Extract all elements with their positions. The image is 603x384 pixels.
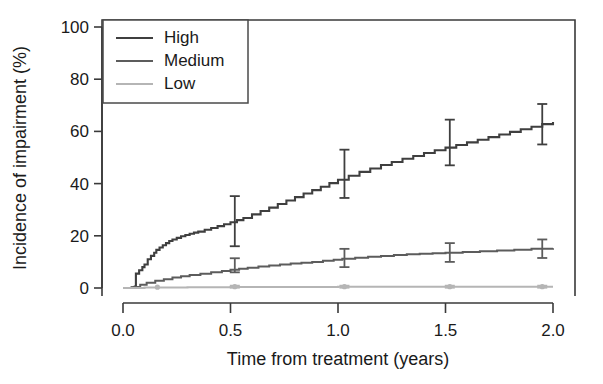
error-bar-high <box>445 120 455 166</box>
x-tick-label: 1.5 <box>434 321 458 340</box>
series-line-medium <box>123 248 553 288</box>
y-tick-label: 60 <box>70 122 89 141</box>
x-axis: 0.00.51.01.52.0 <box>111 303 565 340</box>
chart-figure: 020406080100 0.00.51.01.52.0 Time from t… <box>0 0 603 384</box>
data-marker-low <box>447 284 452 289</box>
y-tick-label: 20 <box>70 227 89 246</box>
error-bar-high <box>339 150 349 198</box>
incidence-of-impairment-chart: 020406080100 0.00.51.01.52.0 Time from t… <box>0 0 603 384</box>
legend: HighMediumLow <box>103 20 248 103</box>
legend-label-high: High <box>164 28 199 47</box>
data-marker-low <box>155 285 160 290</box>
y-axis-title: Incidence of impairment (%) <box>10 46 30 270</box>
x-tick-label: 2.0 <box>541 321 565 340</box>
y-axis: 020406080100 <box>61 18 102 298</box>
y-tick-label: 100 <box>61 18 89 37</box>
data-marker-low <box>342 284 347 289</box>
legend-label-low: Low <box>164 74 196 93</box>
data-marker-low <box>232 284 237 289</box>
series-line-low <box>123 287 553 288</box>
legend-label-medium: Medium <box>164 51 224 70</box>
x-tick-label: 1.0 <box>326 321 350 340</box>
data-series-group <box>123 122 553 288</box>
x-tick-label: 0.0 <box>111 321 135 340</box>
y-tick-label: 0 <box>80 279 89 298</box>
series-line-high <box>123 122 553 288</box>
x-axis-title: Time from treatment (years) <box>227 349 449 369</box>
error-bars-group <box>230 104 547 288</box>
y-tick-label: 80 <box>70 70 89 89</box>
y-tick-label: 40 <box>70 175 89 194</box>
data-marker-low <box>540 284 545 289</box>
x-tick-label: 0.5 <box>219 321 243 340</box>
